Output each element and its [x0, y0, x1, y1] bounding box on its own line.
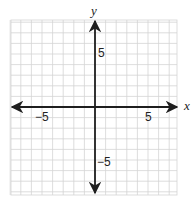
y-tick-label-neg5: −5	[97, 155, 111, 169]
y-tick-label-pos5: 5	[98, 46, 105, 60]
y-axis-label: y	[89, 3, 97, 18]
x-tick-label-neg5: −5	[35, 110, 49, 124]
x-tick-label-pos5: 5	[145, 110, 152, 124]
coordinate-plane: x y −5 5 5 −5	[0, 0, 191, 203]
x-axis-label: x	[183, 98, 190, 113]
